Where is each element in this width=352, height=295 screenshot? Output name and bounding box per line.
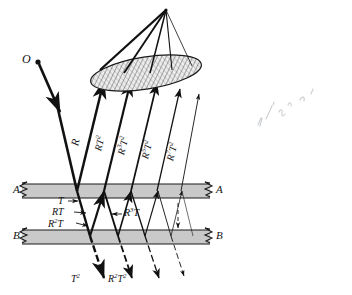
transmitted-label-r2t2: R2T2 xyxy=(108,274,126,284)
source-label-o: O xyxy=(22,53,31,65)
surface-label-a-right: A xyxy=(216,184,223,195)
internal-label-r2t: R2T xyxy=(48,219,63,229)
surface-label-a-left: A xyxy=(13,184,20,195)
internal-label-r3t: R3T xyxy=(124,208,139,218)
surface-label-b-left: B xyxy=(13,230,20,241)
transmitted-label-t2: T2 xyxy=(71,274,80,284)
internal-label-rt: RT xyxy=(52,207,64,217)
internal-label-t: T xyxy=(58,196,64,206)
surface-label-b-right: B xyxy=(216,230,223,241)
